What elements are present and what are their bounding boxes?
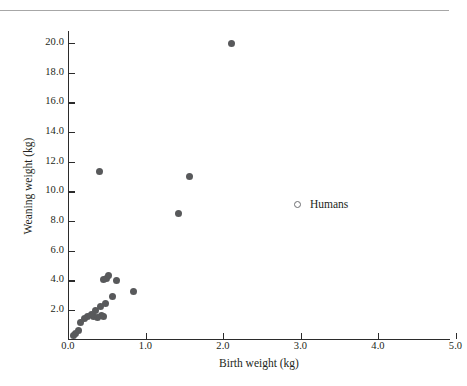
y-tick — [69, 251, 75, 252]
data-point — [96, 168, 103, 175]
data-point — [100, 276, 107, 283]
data-point — [100, 313, 107, 320]
y-tick-label: 16.0 — [28, 95, 64, 106]
data-point — [70, 332, 77, 339]
legend: Humans — [294, 198, 348, 210]
data-point — [109, 293, 116, 300]
data-point — [130, 288, 137, 295]
y-tick — [69, 43, 75, 44]
x-tick — [456, 333, 457, 339]
y-tick — [69, 280, 75, 281]
y-tick — [69, 162, 75, 163]
x-tick-label: 5.0 — [436, 340, 467, 351]
x-axis-title: Birth weight (kg) — [0, 357, 458, 369]
x-tick-label: 3.0 — [281, 340, 321, 351]
legend-marker-open-circle — [294, 201, 301, 208]
y-tick — [69, 73, 75, 74]
y-tick-label: 2.0 — [28, 303, 64, 314]
data-point — [186, 173, 193, 180]
y-axis-line — [68, 31, 69, 339]
x-tick-label: 4.0 — [358, 340, 398, 351]
y-tick-label: 18.0 — [28, 66, 64, 77]
y-tick — [69, 102, 75, 103]
y-tick-label: 20.0 — [28, 36, 64, 47]
x-tick — [223, 333, 224, 339]
x-tick — [378, 333, 379, 339]
x-tick-label: 1.0 — [126, 340, 166, 351]
y-tick — [69, 191, 75, 192]
data-point — [77, 319, 84, 326]
y-axis-title: Weaning weight (kg) — [22, 106, 34, 266]
data-point — [113, 277, 120, 284]
y-tick-label: 4.0 — [28, 273, 64, 284]
x-tick-label: 2.0 — [203, 340, 243, 351]
x-tick — [146, 333, 147, 339]
y-tick — [69, 310, 75, 311]
x-tick — [301, 333, 302, 339]
y-tick — [69, 221, 75, 222]
x-tick-label: 0.0 — [48, 340, 88, 351]
data-point — [228, 40, 235, 47]
legend-label: Humans — [310, 198, 348, 210]
y-tick — [69, 132, 75, 133]
data-point — [175, 210, 182, 217]
